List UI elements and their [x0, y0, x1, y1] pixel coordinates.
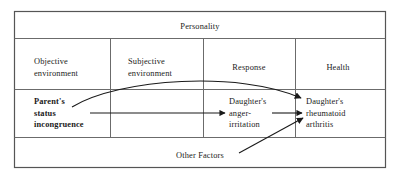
diagram-canvas: Personality Objective environment Subjec… [0, 0, 402, 180]
node-other-factors: Other Factors [176, 150, 224, 162]
column-header-subjective-environment: Subjective environment [128, 56, 172, 79]
personality-band-label: Personality [180, 21, 219, 33]
node-daughters-rheumatoid-arthritis: Daughter's rheumatoid arthritis [306, 96, 346, 131]
node-daughters-anger-irritation: Daughter's anger- irritation [229, 96, 266, 131]
edge-parent-to-arthritis-curved [72, 81, 301, 107]
node-parents-status-incongruence: Parent's status incongruence [34, 96, 84, 131]
column-header-health: Health [326, 62, 349, 74]
column-header-response: Response [232, 62, 265, 74]
column-header-objective-environment: Objective environment [34, 56, 78, 79]
